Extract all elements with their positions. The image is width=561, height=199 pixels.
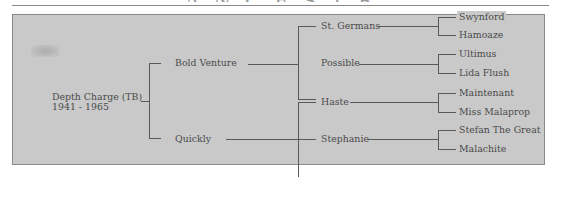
bracket-sd	[438, 54, 439, 73]
pedigree-chart: Depth Charge (TB) 1941 - 1965 Bold Ventu…	[12, 14, 545, 165]
connector-dsd	[438, 112, 456, 113]
connector-dam-out	[226, 139, 298, 140]
dam-name: Quickly	[173, 133, 213, 144]
top-divider	[12, 5, 549, 6]
connector-ds	[298, 102, 316, 103]
bracket-gen1	[149, 63, 150, 139]
dam-sire-name: Haste	[319, 96, 351, 107]
connector-subject	[141, 101, 149, 102]
sdd-name: Lida Flush	[457, 67, 511, 78]
sire-name: Bold Venture	[173, 57, 239, 68]
ddd-name: Malachite	[457, 143, 508, 154]
connector-sd	[298, 99, 316, 100]
connector-sdd	[438, 73, 456, 74]
bracket-ss	[438, 17, 439, 35]
connector-sss	[438, 17, 456, 18]
sss-name: Swynford	[457, 11, 506, 22]
sire-sire-name: St. Germans	[319, 20, 382, 31]
bracket-dam-upper	[298, 102, 299, 139]
page-heading-fragment: ANCESTRY	[185, 0, 385, 2]
connector-ddd	[438, 149, 456, 150]
bracket-sire-upper	[298, 26, 299, 64]
connector-ds-out	[350, 102, 438, 103]
dsd-name: Miss Malaprop	[457, 106, 532, 117]
dam-dam-name: Stephanie	[319, 133, 371, 144]
bracket-sire-lower	[298, 64, 299, 99]
connector-ss	[298, 26, 316, 27]
sire-dam-name: Possible	[319, 57, 362, 68]
connector-dd-out	[368, 139, 438, 140]
connector-ss-out	[377, 26, 438, 27]
print-smudge	[31, 45, 59, 57]
bracket-dam-lower	[298, 139, 299, 177]
dds-name: Stefan The Great	[457, 124, 543, 135]
connector-ssd	[438, 35, 456, 36]
connector-dss	[438, 93, 456, 94]
connector-sd-out	[359, 64, 438, 65]
sds-name: Ultimus	[457, 48, 498, 59]
subject-years: 1941 - 1965	[50, 101, 111, 112]
connector-sds	[438, 54, 456, 55]
connector-dd	[298, 139, 316, 140]
connector-dds	[438, 130, 456, 131]
dss-name: Maintenant	[457, 87, 516, 98]
connector-dam	[149, 138, 161, 139]
ssd-name: Hamoaze	[457, 29, 505, 40]
bracket-ds	[438, 93, 439, 112]
bracket-dd	[438, 130, 439, 149]
connector-sire-out	[248, 64, 298, 65]
connector-sire	[149, 63, 161, 64]
